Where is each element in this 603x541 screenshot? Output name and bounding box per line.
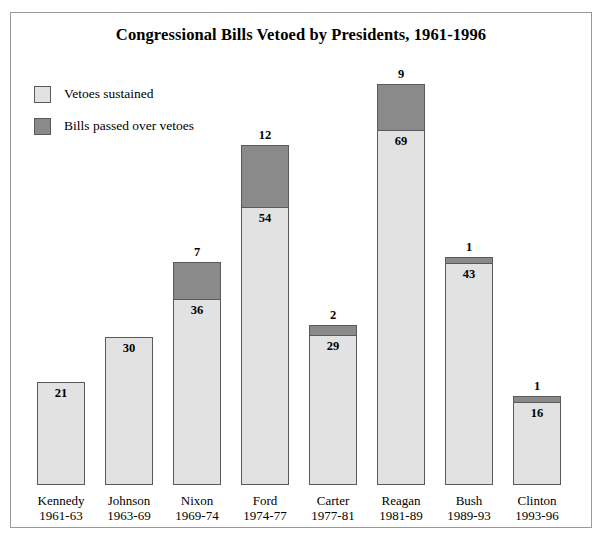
bar-segment-vetoes-sustained-johnson: 30 (105, 337, 153, 485)
bar-reagan: 69 (377, 84, 425, 485)
bar-value-light-carter: 29 (310, 340, 356, 353)
x-axis-label-name: Kennedy (27, 493, 95, 508)
bar-segment-vetoes-sustained-nixon: 36 (173, 300, 221, 485)
bar-segment-bills-passed-ford (241, 145, 289, 208)
x-axis-label-nixon: Nixon1969-74 (163, 493, 231, 523)
x-axis-label-years: 1989-93 (435, 508, 503, 523)
x-axis-label-name: Ford (231, 493, 299, 508)
bar-johnson: 30 (105, 337, 153, 485)
bar-value-light-johnson: 30 (106, 342, 152, 355)
x-axis-label-name: Bush (435, 493, 503, 508)
x-axis-label-name: Nixon (163, 493, 231, 508)
x-axis-label-years: 1961-63 (27, 508, 95, 523)
bar-segment-vetoes-sustained-bush: 43 (445, 264, 493, 485)
x-axis-label-bush: Bush1989-93 (435, 493, 503, 523)
bar-top-value-carter: 2 (309, 309, 357, 322)
bar-top-value-reagan: 9 (377, 68, 425, 81)
x-axis-label-years: 1963-69 (95, 508, 163, 523)
bar-segment-bills-passed-nixon (173, 262, 221, 300)
bar-segment-bills-passed-reagan (377, 84, 425, 131)
x-axis-label-clinton: Clinton1993-96 (503, 493, 571, 523)
bar-segment-bills-passed-clinton (513, 396, 561, 403)
x-axis-label-name: Clinton (503, 493, 571, 508)
bar-segment-vetoes-sustained-clinton: 16 (513, 403, 561, 485)
bar-segment-vetoes-sustained-reagan: 69 (377, 131, 425, 485)
bar-top-value-ford: 12 (241, 129, 289, 142)
bar-nixon: 36 (173, 262, 221, 485)
bar-value-light-ford: 54 (242, 212, 288, 225)
bar-value-light-bush: 43 (446, 268, 492, 281)
x-axis-label-years: 1977-81 (299, 508, 367, 523)
bar-top-value-bush: 1 (445, 241, 493, 254)
x-axis-label-reagan: Reagan1981-89 (367, 493, 435, 523)
bar-segment-bills-passed-bush (445, 257, 493, 264)
x-axis-label-ford: Ford1974-77 (231, 493, 299, 523)
x-axis-label-name: Reagan (367, 493, 435, 508)
x-axis-label-years: 1981-89 (367, 508, 435, 523)
bar-clinton: 16 (513, 396, 561, 485)
bar-value-light-clinton: 16 (514, 407, 560, 420)
bar-carter: 29 (309, 325, 357, 485)
bar-segment-vetoes-sustained-carter: 29 (309, 336, 357, 485)
bar-value-light-kennedy: 21 (38, 387, 84, 400)
x-axis-label-years: 1993-96 (503, 508, 571, 523)
bar-kennedy: 21 (37, 382, 85, 485)
x-axis-label-years: 1974-77 (231, 508, 299, 523)
bar-segment-vetoes-sustained-ford: 54 (241, 208, 289, 485)
x-axis-label-carter: Carter1977-81 (299, 493, 367, 523)
x-axis-label-name: Johnson (95, 493, 163, 508)
bar-value-light-nixon: 36 (174, 304, 220, 317)
plot-area: 21Kennedy1961-6330Johnson1963-69367Nixon… (11, 13, 593, 529)
bar-top-value-clinton: 1 (513, 380, 561, 393)
bar-segment-vetoes-sustained-kennedy: 21 (37, 382, 85, 485)
x-axis-label-kennedy: Kennedy1961-63 (27, 493, 95, 523)
bar-ford: 54 (241, 145, 289, 485)
chart-figure: Congressional Bills Vetoed by Presidents… (10, 12, 592, 528)
bar-value-light-reagan: 69 (378, 135, 424, 148)
x-axis-label-years: 1969-74 (163, 508, 231, 523)
x-axis-label-name: Carter (299, 493, 367, 508)
bar-top-value-nixon: 7 (173, 246, 221, 259)
bar-bush: 43 (445, 257, 493, 485)
bar-segment-bills-passed-carter (309, 325, 357, 336)
x-axis-label-johnson: Johnson1963-69 (95, 493, 163, 523)
